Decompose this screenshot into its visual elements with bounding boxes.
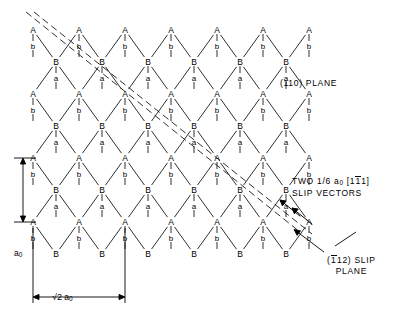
lattice-text: b: [261, 170, 266, 179]
bond-diagonal: [290, 99, 306, 121]
dim-arrow-right: [119, 294, 125, 299]
bond-diagonal: [175, 195, 191, 217]
lattice-text: a: [192, 74, 197, 83]
lattice-text: a: [192, 138, 197, 147]
lattice-text: a: [238, 74, 243, 83]
lattice-text: B: [145, 185, 151, 195]
slip-vectors-line2: SLIP VECTORS: [292, 188, 369, 199]
bond-diagonal: [175, 227, 191, 249]
lattice-text: B: [99, 249, 105, 259]
bond-diagonal: [244, 99, 260, 121]
bond-diagonal: [221, 67, 237, 89]
bond-diagonal: [221, 163, 237, 185]
lattice-text: A: [76, 217, 82, 227]
lattice-text: b: [77, 42, 82, 51]
bond-diagonal: [60, 67, 76, 89]
bond-diagonal: [37, 35, 53, 57]
bond-diagonal: [129, 67, 145, 89]
lattice-text: a: [146, 74, 151, 83]
lattice-text: B: [145, 57, 151, 67]
bond-diagonal: [152, 35, 168, 57]
slip-plane-line1: (112) SLIP: [327, 255, 376, 266]
lattice-text: b: [215, 106, 220, 115]
lattice-text: b: [123, 170, 128, 179]
bond-diagonal: [83, 227, 99, 249]
lattice-text: B: [99, 57, 105, 67]
bond-diagonal: [290, 131, 306, 153]
dimension-label-vertical: a0: [14, 248, 22, 258]
lattice-text: A: [168, 217, 174, 227]
bond-diagonal: [290, 35, 306, 57]
lattice-text: B: [191, 185, 197, 195]
bond-diagonal: [83, 131, 99, 153]
lattice-text: b: [215, 234, 220, 243]
lattice-text: B: [191, 249, 197, 259]
lattice-text: B: [99, 121, 105, 131]
lattice-text: B: [283, 185, 289, 195]
plane-label: (110) PLANE: [280, 78, 337, 89]
lattice-text: B: [191, 121, 197, 131]
lattice-text: A: [260, 25, 266, 35]
lattice-text: A: [122, 89, 128, 99]
lattice-text: b: [169, 234, 174, 243]
bond-diagonal: [60, 99, 76, 121]
bond-diagonal: [129, 131, 145, 153]
bond-diagonal: [129, 35, 145, 57]
lattice-text: A: [122, 217, 128, 227]
bond-diagonal: [244, 35, 260, 57]
lattice-text: A: [214, 153, 220, 163]
lattice-text: A: [168, 25, 174, 35]
bond-diagonal: [152, 67, 168, 89]
lattice-text: B: [53, 249, 59, 259]
lattice-text: a: [192, 202, 197, 211]
dashed-slip-line: [26, 12, 300, 232]
bond-diagonal: [244, 227, 260, 249]
dim-arrow-left: [33, 294, 39, 299]
lattice-text: b: [123, 42, 128, 51]
slip-vectors-label: TWO 1/6 a0 [111] SLIP VECTORS: [292, 176, 369, 199]
bond-diagonal: [37, 195, 53, 217]
lattice-text: A: [306, 25, 312, 35]
bond-diagonal: [83, 99, 99, 121]
lattice-text: B: [53, 121, 59, 131]
lattice-text: A: [260, 89, 266, 99]
lattice-text: A: [306, 153, 312, 163]
lattice-text: B: [99, 185, 105, 195]
bond-diagonal: [60, 195, 76, 217]
lattice-text: B: [145, 249, 151, 259]
bond-diagonal: [175, 99, 191, 121]
bond-diagonal: [83, 195, 99, 217]
lattice-text: A: [306, 217, 312, 227]
bond-diagonal: [60, 131, 76, 153]
bond-diagonal: [83, 35, 99, 57]
lattice-text: A: [122, 153, 128, 163]
lattice-text: b: [169, 106, 174, 115]
dimension-lines: [14, 158, 125, 303]
lattice-text: A: [30, 25, 36, 35]
lattice-text: b: [123, 106, 128, 115]
bond-diagonal: [175, 131, 191, 153]
lattice-text: b: [31, 170, 36, 179]
lattice-text: b: [31, 106, 36, 115]
lattice-text: b: [77, 106, 82, 115]
bond-diagonal: [152, 99, 168, 121]
bond-diagonal: [60, 35, 76, 57]
lattice-text: b: [31, 234, 36, 243]
lattice-text: a: [146, 202, 151, 211]
lattice-text: A: [76, 25, 82, 35]
bond-diagonal: [198, 163, 214, 185]
leader-line-tail: [335, 232, 356, 246]
lattice-text: b: [169, 170, 174, 179]
dim-arrow-up: [20, 158, 25, 164]
bond-diagonal: [198, 227, 214, 249]
lattice-text: b: [307, 42, 312, 51]
lattice-text: A: [214, 25, 220, 35]
bond-diagonal: [60, 163, 76, 185]
dimension-label-horizontal: √2 a0: [52, 292, 73, 302]
bond-diagonal: [106, 131, 122, 153]
lattice-text: B: [237, 57, 243, 67]
lattice-text: B: [191, 57, 197, 67]
lattice-text: B: [237, 249, 243, 259]
lattice-text: A: [260, 217, 266, 227]
bond-diagonal: [175, 67, 191, 89]
